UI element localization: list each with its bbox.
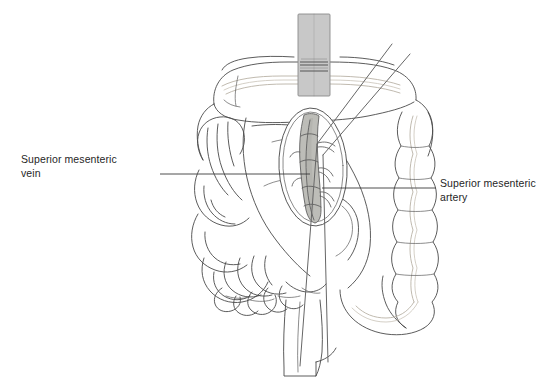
label-sma-line1: Superior mesenteric bbox=[440, 176, 536, 190]
label-superior-mesenteric-artery: Superior mesenteric artery bbox=[440, 176, 536, 204]
label-smv-line2: vein bbox=[21, 166, 117, 180]
label-superior-mesenteric-vein: Superior mesenteric vein bbox=[21, 152, 117, 180]
duodenum-third-part bbox=[284, 300, 336, 376]
label-smv-line1: Superior mesenteric bbox=[21, 152, 117, 166]
anatomical-figure: Superior mesenteric vein Superior mesent… bbox=[0, 0, 559, 389]
cecum bbox=[340, 276, 424, 335]
label-sma-line2: artery bbox=[440, 190, 536, 204]
retractor bbox=[298, 14, 330, 96]
